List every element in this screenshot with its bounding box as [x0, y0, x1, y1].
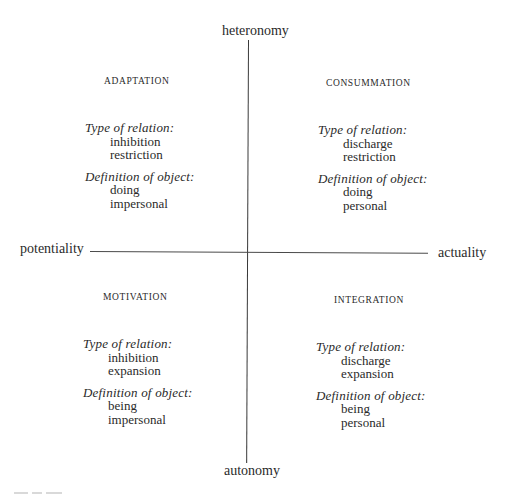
type-of-relation-group: Type of relation: discharge expansion — [316, 340, 426, 381]
quadrant-title: CONSUMMATION — [326, 78, 411, 89]
definition-of-object-group: Definition of object: being personal — [316, 389, 426, 430]
type-of-relation-group: Type of relation: discharge restriction — [318, 123, 428, 164]
type-of-relation-value: expansion — [83, 364, 193, 378]
type-of-relation-value: inhibition — [83, 351, 193, 365]
type-of-relation-value: discharge — [318, 137, 428, 151]
definition-of-object-group: Definition of object: being impersonal — [83, 386, 193, 427]
type-of-relation-value: expansion — [316, 367, 426, 381]
definition-of-object-group: Definition of object: doing impersonal — [85, 170, 195, 211]
axis-label-actuality: actuality — [438, 245, 486, 261]
type-of-relation-label: Type of relation: — [318, 123, 428, 137]
definition-of-object-value: doing — [85, 183, 195, 197]
quadrant-details: Type of relation: discharge restriction … — [318, 123, 428, 212]
type-of-relation-value: restriction — [318, 150, 428, 164]
definition-of-object-label: Definition of object: — [83, 386, 193, 400]
definition-of-object-value: doing — [318, 185, 428, 199]
type-of-relation-value: inhibition — [85, 135, 195, 149]
definition-of-object-label: Definition of object: — [85, 170, 195, 184]
type-of-relation-label: Type of relation: — [85, 121, 195, 135]
definition-of-object-value: being — [83, 399, 193, 413]
cropped-caption-fragment — [14, 489, 84, 495]
type-of-relation-label: Type of relation: — [83, 337, 193, 351]
axis-label-potentiality: potentiality — [20, 241, 84, 257]
type-of-relation-group: Type of relation: inhibition expansion — [83, 337, 193, 378]
axis-label-autonomy: autonomy — [224, 463, 280, 479]
type-of-relation-label: Type of relation: — [316, 340, 426, 354]
definition-of-object-value: being — [316, 402, 426, 416]
definition-of-object-value: impersonal — [85, 197, 195, 211]
definition-of-object-label: Definition of object: — [318, 172, 428, 186]
quadrant-title: ADAPTATION — [104, 76, 169, 87]
type-of-relation-group: Type of relation: inhibition restriction — [85, 121, 195, 162]
type-of-relation-value: restriction — [85, 148, 195, 162]
definition-of-object-value: personal — [316, 416, 426, 430]
quadrant-details: Type of relation: inhibition expansion D… — [83, 337, 193, 426]
definition-of-object-group: Definition of object: doing personal — [318, 172, 428, 213]
definition-of-object-label: Definition of object: — [316, 389, 426, 403]
definition-of-object-value: impersonal — [83, 413, 193, 427]
type-of-relation-value: discharge — [316, 354, 426, 368]
quadrant-title: INTEGRATION — [334, 295, 404, 306]
quadrant-details: Type of relation: discharge expansion De… — [316, 340, 426, 429]
horizontal-axis-line — [90, 251, 428, 254]
quadrant-details: Type of relation: inhibition restriction… — [85, 121, 195, 210]
definition-of-object-value: personal — [318, 199, 428, 213]
quadrant-title: MOTIVATION — [103, 292, 167, 303]
axis-label-heteronomy: heteronomy — [222, 23, 289, 39]
